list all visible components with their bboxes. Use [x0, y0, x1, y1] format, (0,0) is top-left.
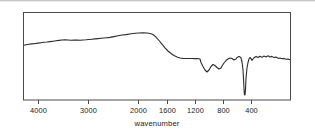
- x-axis-title: wavenumber: [134, 119, 180, 128]
- tick-label-1200: 1200: [187, 106, 204, 115]
- tick-label-1600: 1600: [159, 106, 176, 115]
- tick-label-800: 800: [217, 106, 230, 115]
- spectrum-figure: 4000 3000 2000 1600 1200 800 400 wavenum…: [0, 0, 315, 132]
- tick-label-4000: 4000: [30, 106, 47, 115]
- tick-label-3000: 3000: [80, 106, 97, 115]
- spectrum-chart: 4000 3000 2000 1600 1200 800 400 wavenum…: [0, 0, 315, 132]
- x-axis-ticks: [39, 100, 252, 104]
- plot-frame: [24, 13, 291, 101]
- tick-label-400: 400: [245, 106, 258, 115]
- tick-label-2000: 2000: [130, 106, 147, 115]
- spectrum-trace: [24, 33, 290, 95]
- x-axis-tick-labels: 4000 3000 2000 1600 1200 800 400: [30, 106, 258, 115]
- screenshot-root: 4000 3000 2000 1600 1200 800 400 wavenum…: [0, 0, 315, 132]
